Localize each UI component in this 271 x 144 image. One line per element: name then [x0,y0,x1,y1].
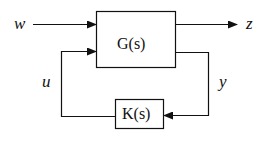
w-signal-label: w [14,14,25,34]
k-block-label: K(s) [122,105,150,123]
z-signal-label: z [246,14,253,34]
g-block-label: G(s) [117,35,145,53]
y-signal-label: y [219,72,227,92]
u-signal-label: u [42,72,51,92]
